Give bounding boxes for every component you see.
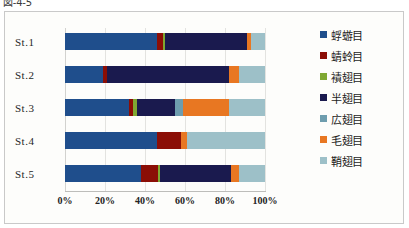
legend-label: 蜻蛉目	[331, 48, 363, 64]
bar-row	[65, 165, 265, 182]
legend-item-2[interactable]: 襀翅目	[320, 66, 400, 87]
bar-segment	[157, 132, 181, 149]
bar-segment	[231, 165, 239, 182]
bar-row	[65, 99, 265, 116]
gridline-100	[265, 28, 266, 191]
bar-segment	[65, 165, 141, 182]
legend-swatch-icon	[320, 94, 327, 101]
x-tick-label-40: 40%	[135, 195, 155, 206]
plot-area	[65, 28, 265, 191]
legend-item-5[interactable]: 毛翅目	[320, 129, 400, 150]
legend-swatch-icon	[320, 73, 327, 80]
legend-label: 襀翅目	[331, 69, 363, 85]
category-label-st-1: St.1	[15, 36, 63, 48]
legend-label: 蜉蝣目	[331, 27, 363, 43]
x-tick-label-60: 60%	[175, 195, 195, 206]
legend-label: 半翅目	[331, 90, 363, 106]
bar-segment	[239, 66, 265, 83]
x-axis-line	[65, 191, 266, 192]
bar-segment	[160, 165, 231, 182]
legend-label: 毛翅目	[331, 132, 363, 148]
bar-segment	[187, 132, 265, 149]
bar-segment	[251, 33, 265, 50]
bar-segment	[141, 165, 158, 182]
legend-swatch-icon	[320, 115, 327, 122]
x-tick-label-100: 100%	[253, 195, 278, 206]
x-tick-label-20: 20%	[95, 195, 115, 206]
category-label-st-5: St.5	[15, 168, 63, 180]
bar-segment	[65, 99, 129, 116]
bar-row	[65, 132, 265, 149]
legend-swatch-icon	[320, 31, 327, 38]
bar-segment	[175, 99, 183, 116]
caption-strip: 図-4-5	[0, 0, 409, 11]
bar-segment	[65, 33, 157, 50]
legend-swatch-icon	[320, 52, 327, 59]
bar-segment	[183, 99, 229, 116]
bar-segment	[137, 99, 175, 116]
bar-segment	[65, 66, 103, 83]
legend-item-0[interactable]: 蜉蝣目	[320, 24, 400, 45]
legend-swatch-icon	[320, 136, 327, 143]
bar-segment	[239, 165, 265, 182]
legend-swatch-icon	[320, 157, 327, 164]
legend-item-6[interactable]: 鞘翅目	[320, 150, 400, 171]
category-label-st-4: St.4	[15, 135, 63, 147]
legend-label: 鞘翅目	[331, 153, 363, 169]
legend-item-3[interactable]: 半翅目	[320, 87, 400, 108]
x-tick-label-0: 0%	[58, 195, 73, 206]
bar-row	[65, 66, 265, 83]
bar-segment	[165, 33, 247, 50]
bar-segment	[229, 66, 239, 83]
bar-segment	[107, 66, 229, 83]
figure-caption: 図-4-5	[3, 0, 32, 9]
bar-segment	[229, 99, 265, 116]
category-label-st-2: St.2	[15, 69, 63, 81]
legend-item-1[interactable]: 蜻蛉目	[320, 45, 400, 66]
x-tick-label-80: 80%	[215, 195, 235, 206]
category-label-st-3: St.3	[15, 102, 63, 114]
bar-row	[65, 33, 265, 50]
bar-segment	[65, 132, 157, 149]
legend-label: 広翅目	[331, 111, 363, 127]
chart-legend: 蜉蝣目蜻蛉目襀翅目半翅目広翅目毛翅目鞘翅目	[320, 24, 400, 171]
legend-item-4[interactable]: 広翅目	[320, 108, 400, 129]
